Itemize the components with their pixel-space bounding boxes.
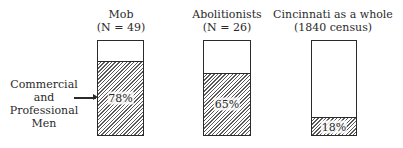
- bar-title-abolitionists: Abolitionists (N = 26): [167, 8, 287, 34]
- bar-title-abolitionists-name: Abolitionists: [167, 8, 287, 21]
- category-label-line: Commercial: [8, 78, 80, 91]
- bar-title-mob-name: Mob: [61, 8, 181, 21]
- bar-abolitionists-value: 65%: [214, 98, 240, 111]
- category-label-line: Professional: [8, 104, 80, 117]
- bar-cincinnati-fill: 18%: [312, 117, 356, 135]
- category-label-line: and: [8, 91, 80, 104]
- bar-title-cincinnati: Cincinnati as a whole (1840 census): [273, 8, 393, 34]
- arrow-right-icon: [74, 97, 96, 99]
- bar-mob-fill: 78%: [98, 61, 143, 135]
- category-label-line: Men: [8, 117, 80, 130]
- bar-title-mob-n: (N = 49): [61, 21, 181, 34]
- bar-title-cincinnati-census: (1840 census): [273, 21, 393, 34]
- bar-mob: 78%: [97, 40, 144, 136]
- bar-cincinnati-value: 18%: [321, 120, 347, 133]
- bar-cincinnati: 18%: [311, 40, 357, 136]
- bar-mob-value: 78%: [107, 92, 133, 105]
- bar-title-mob: Mob (N = 49): [61, 8, 181, 34]
- bar-abolitionists-fill: 65%: [204, 73, 250, 135]
- bar-title-cincinnati-name: Cincinnati as a whole: [273, 8, 393, 21]
- bar-abolitionists: 65%: [203, 40, 251, 136]
- category-label: Commercial and Professional Men: [8, 78, 80, 130]
- bar-title-abolitionists-n: (N = 26): [167, 21, 287, 34]
